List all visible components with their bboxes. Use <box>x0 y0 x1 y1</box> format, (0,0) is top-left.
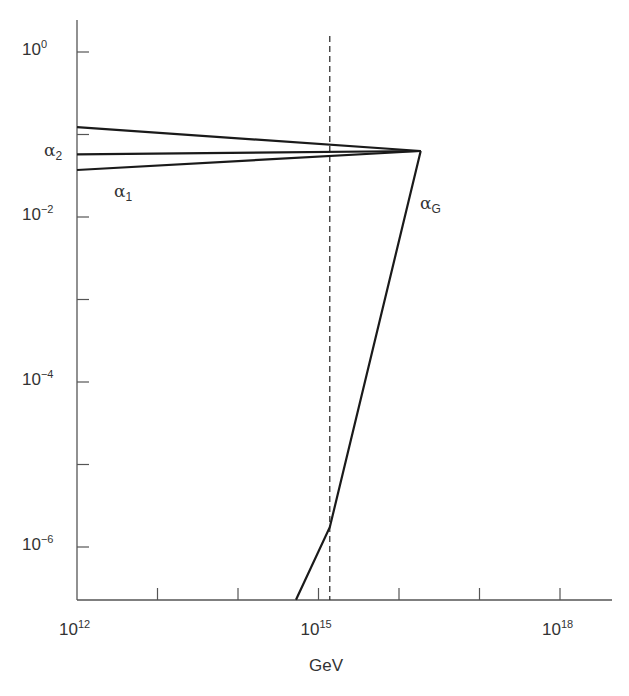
series-α3 <box>77 127 421 151</box>
series-αG <box>296 151 421 600</box>
chart-canvas <box>0 0 629 696</box>
x-tick-label: 1012 <box>59 620 90 640</box>
y-tick-label: 10−2 <box>22 205 53 225</box>
alpha1-symbol: α <box>114 181 125 201</box>
alpha2-symbol: α <box>44 140 55 160</box>
y-tick-label: 100 <box>22 40 47 60</box>
series-label-alphaG: αG <box>420 193 441 216</box>
x-tick-label: 1015 <box>301 620 332 640</box>
x-tick-label: 1018 <box>542 620 573 640</box>
y-tick-label: 10−6 <box>22 535 53 555</box>
axes <box>77 20 612 600</box>
alpha1-subscript: 1 <box>125 190 132 204</box>
y-tick-label: 10−4 <box>22 370 53 390</box>
series-label-alpha1: α1 <box>114 181 132 204</box>
x-axis-title: GeV <box>309 656 343 676</box>
alphaG-symbol: α <box>420 193 431 213</box>
alpha2-subscript: 2 <box>55 149 62 163</box>
series-label-alpha2: α2 <box>44 140 62 163</box>
alphaG-subscript: G <box>431 202 440 216</box>
